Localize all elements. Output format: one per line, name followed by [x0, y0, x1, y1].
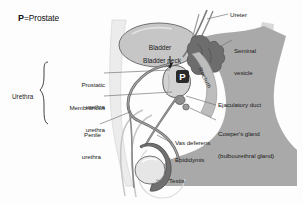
legend-meaning: Prostate: [29, 13, 59, 23]
anatomy-diagram: P=Prostate P Urethra Prostatic urethra M…: [0, 0, 303, 204]
testis-shape: [135, 156, 165, 184]
label-epididymis: Epididymis: [175, 156, 204, 163]
label-ejaculatory-duct: Ejaculatory duct: [218, 101, 261, 108]
prostate-p-marker: P: [176, 70, 189, 83]
label-penile-urethra-line1: Penile: [55, 131, 101, 138]
label-membranous-urethra-line1: Membranous: [45, 104, 105, 111]
label-cowpers-gland-line2: (bulbourethral gland): [218, 152, 274, 159]
vas-deferens-group: [145, 96, 178, 146]
label-penile-urethra: Penile urethra: [55, 117, 101, 175]
legend-prostate-key: P=Prostate: [18, 13, 59, 23]
label-vas-deferens: Vas deferens: [175, 139, 210, 146]
label-cowpers-gland-line1: Cowper's gland: [218, 130, 274, 137]
cowpers-gland-shape: [183, 104, 189, 110]
urethra-group-label: Urethra: [12, 93, 33, 100]
label-bladder: Bladder: [136, 44, 184, 51]
label-bladder-neck: Bladder neck: [131, 57, 193, 64]
label-penile-urethra-line2: urethra: [55, 153, 101, 160]
label-prostatic-urethra-line1: Prostatic: [55, 81, 105, 88]
label-seminal-vesicle-line2: vesicle: [234, 69, 256, 76]
label-ureter: Ureter: [230, 11, 247, 18]
label-seminal-vesicle-line1: Seminal: [234, 47, 256, 54]
label-testis: Testis: [169, 177, 185, 184]
label-cowpers-gland: Cowper's gland (bulbourethral gland): [218, 116, 274, 174]
label-seminal-vesicle: Seminal vesicle: [234, 33, 256, 91]
